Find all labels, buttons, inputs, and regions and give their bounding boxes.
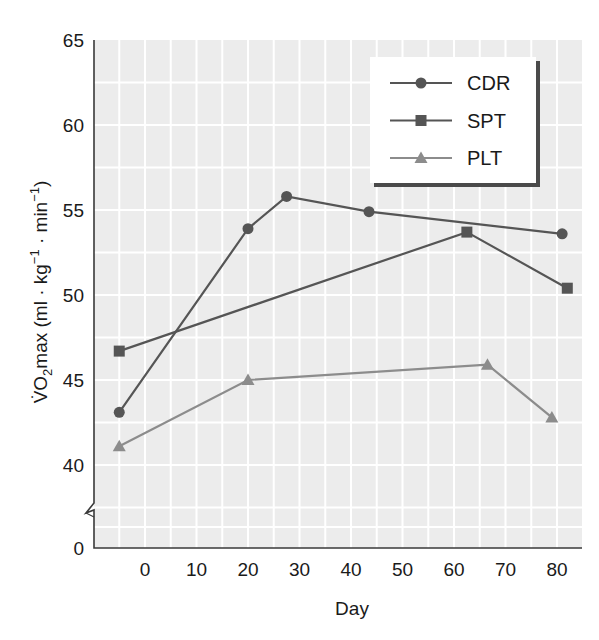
x-tick-label: 50 xyxy=(392,559,413,580)
y-axis-title: V̇O2max (ml · kg−1 · min−1) xyxy=(27,181,55,404)
circle-marker-icon xyxy=(281,191,292,202)
y-tick-label: 45 xyxy=(63,370,84,391)
square-marker-icon xyxy=(114,346,125,357)
y-tick-label: 60 xyxy=(63,115,84,136)
x-tick-label: 0 xyxy=(140,559,151,580)
x-tick-label: 20 xyxy=(237,559,258,580)
x-tick-label: 40 xyxy=(340,559,361,580)
circle-marker-icon xyxy=(557,228,568,239)
chart: 0404550556065 01020304050607080 CDRSPTPL… xyxy=(0,0,599,640)
legend-label: SPT xyxy=(467,110,506,132)
x-axis-title: Day xyxy=(335,598,369,619)
square-marker-icon xyxy=(416,115,427,126)
y-tick-label: 40 xyxy=(63,455,84,476)
y-tick-label: 55 xyxy=(63,200,84,221)
legend-label: PLT xyxy=(467,147,502,169)
circle-marker-icon xyxy=(364,206,375,217)
legend: CDRSPTPLT xyxy=(370,57,540,187)
x-tick-label: 10 xyxy=(186,559,207,580)
x-axis-ticks: 01020304050607080 xyxy=(140,559,568,580)
x-tick-label: 80 xyxy=(546,559,567,580)
circle-marker-icon xyxy=(416,78,427,89)
square-marker-icon xyxy=(461,227,472,238)
x-tick-label: 30 xyxy=(289,559,310,580)
circle-marker-icon xyxy=(114,407,125,418)
x-tick-label: 70 xyxy=(495,559,516,580)
square-marker-icon xyxy=(562,283,573,294)
y-tick-label: 65 xyxy=(63,30,84,51)
x-tick-label: 60 xyxy=(443,559,464,580)
y-axis-ticks: 0404550556065 xyxy=(63,30,84,559)
axis-break-icon xyxy=(86,513,94,517)
circle-marker-icon xyxy=(243,223,254,234)
y-tick-label: 0 xyxy=(73,538,84,559)
legend-label: CDR xyxy=(467,72,510,94)
y-tick-label: 50 xyxy=(63,285,84,306)
